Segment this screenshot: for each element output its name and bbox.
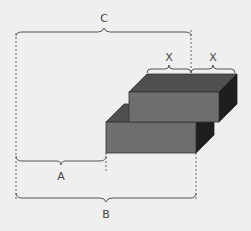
brace-x-right — [191, 65, 235, 73]
upper-block-top-face — [129, 74, 237, 92]
block-diagram: C X X A B — [0, 0, 251, 231]
brace-b — [16, 193, 196, 202]
label-x-left: X — [165, 51, 173, 64]
label-b: B — [102, 208, 110, 221]
label-a: A — [57, 170, 65, 183]
label-x-right: X — [209, 51, 217, 64]
brace-x-left — [147, 65, 191, 73]
brace-a — [16, 156, 106, 165]
upper-block — [129, 74, 237, 122]
lower-block-front-face — [106, 122, 196, 153]
upper-block-front-face — [129, 92, 219, 122]
diagram-stage: C X X A B — [0, 0, 251, 231]
brace-c — [16, 28, 191, 36]
label-c: C — [100, 12, 108, 25]
